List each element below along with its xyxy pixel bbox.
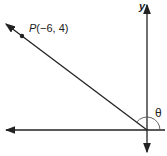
diagram: P(−6, 4) y θ xyxy=(0,0,167,156)
point-coords: (−6, 4) xyxy=(36,22,68,34)
theta-label: θ xyxy=(155,107,162,119)
coordinate-plane xyxy=(0,0,167,156)
terminal-ray xyxy=(6,24,147,130)
y-axis-label: y xyxy=(139,1,145,12)
point-p-label: P(−6, 4) xyxy=(29,23,68,34)
point-p xyxy=(20,34,24,38)
